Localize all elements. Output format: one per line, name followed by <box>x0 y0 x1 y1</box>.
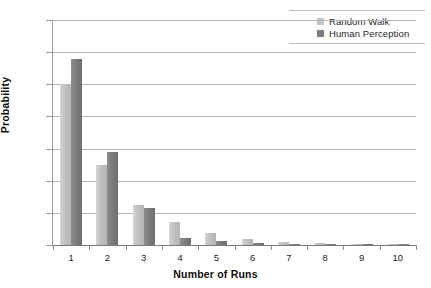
bar-random-walk-5 <box>205 233 216 245</box>
bar-human-perception-4 <box>180 238 191 245</box>
bar-human-perception-3 <box>144 208 155 245</box>
bar-group <box>169 20 191 245</box>
bar-group <box>387 20 409 245</box>
bar-random-walk-10 <box>387 244 398 245</box>
bar-group <box>278 20 300 245</box>
bars-layer <box>53 20 416 245</box>
x-tick-mark <box>126 245 127 250</box>
x-tick-label-2: 2 <box>89 252 125 263</box>
bar-group <box>60 20 82 245</box>
x-tick-mark <box>89 245 90 250</box>
bar-group <box>242 20 264 245</box>
x-tick-mark <box>271 245 272 250</box>
bar-human-perception-5 <box>216 241 227 245</box>
x-tick-label-5: 5 <box>198 252 234 263</box>
bar-group <box>205 20 227 245</box>
bar-group <box>133 20 155 245</box>
bar-group <box>314 20 336 245</box>
probability-bar-chart: Random Walk Human Perception 0.70.60.50.… <box>0 0 431 288</box>
x-tick-label-8: 8 <box>307 252 343 263</box>
bar-random-walk-7 <box>278 242 289 245</box>
bar-random-walk-9 <box>351 244 362 245</box>
bar-human-perception-1 <box>71 59 82 245</box>
x-tick-mark <box>343 245 344 250</box>
bar-human-perception-8 <box>325 244 336 245</box>
bar-human-perception-7 <box>289 244 300 245</box>
bar-human-perception-10 <box>398 244 409 245</box>
x-tick-mark <box>198 245 199 250</box>
bar-group <box>351 20 373 245</box>
bar-human-perception-2 <box>107 152 118 245</box>
bar-random-walk-2 <box>96 165 107 245</box>
x-tick-mark <box>307 245 308 250</box>
bar-random-walk-8 <box>314 243 325 245</box>
x-tick-label-4: 4 <box>162 252 198 263</box>
x-tick-mark <box>162 245 163 250</box>
y-tick-mark <box>46 245 52 246</box>
x-tick-mark <box>416 245 417 250</box>
x-tick-mark <box>53 245 54 250</box>
bar-random-walk-4 <box>169 222 180 245</box>
x-axis-title: Number of Runs <box>0 268 431 280</box>
x-tick-label-9: 9 <box>344 252 380 263</box>
y-tick-mark <box>46 52 52 53</box>
x-tick-mark <box>235 245 236 250</box>
bar-human-perception-6 <box>253 243 264 245</box>
bar-random-walk-1 <box>60 84 71 245</box>
y-tick-mark <box>46 149 52 150</box>
y-tick-mark <box>46 116 52 117</box>
y-axis-title: Probability <box>0 77 11 133</box>
x-tick-label-7: 7 <box>271 252 307 263</box>
bar-human-perception-9 <box>362 244 373 245</box>
x-tick-label-10: 10 <box>380 252 416 263</box>
bar-random-walk-3 <box>133 205 144 245</box>
y-tick-mark <box>46 213 52 214</box>
bar-group <box>96 20 118 245</box>
x-tick-label-1: 1 <box>53 252 89 263</box>
x-tick-label-6: 6 <box>235 252 271 263</box>
y-tick-mark <box>46 84 52 85</box>
x-tick-label-3: 3 <box>126 252 162 263</box>
y-tick-mark <box>46 181 52 182</box>
y-tick-mark <box>46 20 52 21</box>
x-tick-mark <box>380 245 381 250</box>
bar-random-walk-6 <box>242 239 253 245</box>
